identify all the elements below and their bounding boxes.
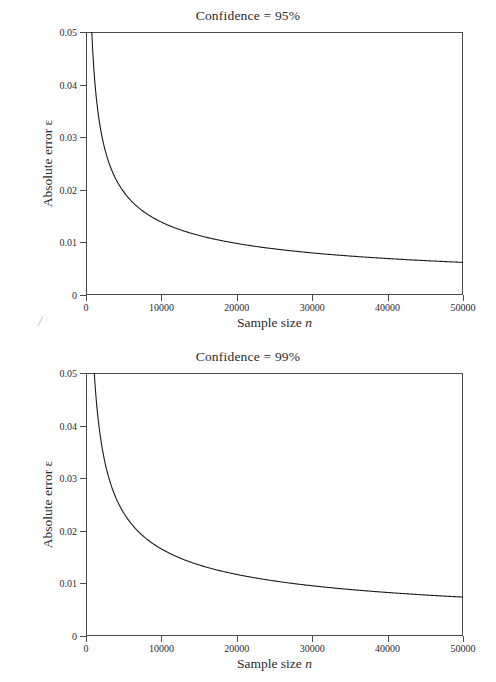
x-axis-label-variable-99: n (305, 656, 312, 671)
x-ticklabel-99-0: 0 (84, 643, 89, 654)
x-tick-95-2 (237, 295, 238, 301)
x-ticklabel-95-4: 40000 (375, 302, 400, 313)
y-ticklabel-99-4: 0.04 (60, 420, 78, 431)
x-axis-label-text-99: Sample size (237, 656, 305, 671)
y-axis-label-95: Absolute error ε (40, 32, 56, 295)
x-axis-label-95: Sample size n (86, 315, 463, 331)
y-ticklabel-99-1: 0.01 (60, 578, 78, 589)
y-ticklabel-99-3: 0.03 (60, 473, 78, 484)
x-ticklabel-95-0: 0 (84, 302, 89, 313)
y-tick-95-3 (80, 137, 86, 138)
x-ticklabel-99-5: 50000 (451, 643, 476, 654)
y-ticklabel-95-1: 0.01 (60, 237, 78, 248)
y-tick-99-1 (80, 583, 86, 584)
x-tick-99-5 (463, 636, 464, 642)
y-tick-99-2 (80, 531, 86, 532)
y-tick-95-2 (80, 190, 86, 191)
x-tick-99-0 (86, 636, 87, 642)
y-tick-95-5 (80, 32, 86, 33)
x-tick-99-3 (312, 636, 313, 642)
x-tick-95-3 (312, 295, 313, 301)
y-ticklabel-99-5: 0.05 (60, 368, 78, 379)
x-tick-95-4 (388, 295, 389, 301)
x-ticklabel-99-4: 40000 (375, 643, 400, 654)
x-ticklabel-99-3: 30000 (300, 643, 325, 654)
x-tick-99-2 (237, 636, 238, 642)
y-ticklabel-95-0: 0 (72, 290, 77, 301)
x-ticklabel-99-1: 10000 (149, 643, 174, 654)
y-ticklabel-95-4: 0.04 (60, 79, 78, 90)
x-axis-label-text-95: Sample size (237, 315, 305, 330)
x-tick-95-5 (463, 295, 464, 301)
y-ticklabel-95-3: 0.03 (60, 132, 78, 143)
figure-confidence-99: Confidence = 99% 00.010.020.030.040.05 0… (0, 341, 496, 682)
chart-title-99: Confidence = 99% (0, 349, 496, 365)
plot-area-95: 00.010.020.030.040.05 010000200003000040… (86, 32, 463, 295)
y-tick-99-3 (80, 478, 86, 479)
figure-confidence-95: Confidence = 95% 00.010.020.030.040.05 0… (0, 0, 496, 341)
y-tick-99-5 (80, 373, 86, 374)
x-axis-label-99: Sample size n (86, 656, 463, 672)
y-ticklabel-99-2: 0.02 (60, 525, 78, 536)
curve-99 (86, 373, 463, 636)
y-tick-95-4 (80, 85, 86, 86)
y-ticklabel-95-5: 0.05 (60, 27, 78, 38)
x-axis-label-variable-95: n (305, 315, 312, 330)
x-tick-95-1 (161, 295, 162, 301)
x-tick-99-4 (388, 636, 389, 642)
chart-title-95: Confidence = 95% (0, 8, 496, 24)
x-ticklabel-99-2: 20000 (224, 643, 249, 654)
x-ticklabel-95-1: 10000 (149, 302, 174, 313)
x-tick-95-0 (86, 295, 87, 301)
x-ticklabel-95-5: 50000 (451, 302, 476, 313)
x-tick-99-1 (161, 636, 162, 642)
y-axis-label-99: Absolute error ε (40, 373, 56, 636)
y-ticklabel-99-0: 0 (72, 631, 77, 642)
y-tick-95-1 (80, 242, 86, 243)
x-ticklabel-95-3: 30000 (300, 302, 325, 313)
plot-area-99: 00.010.020.030.040.05 010000200003000040… (86, 373, 463, 636)
scan-artifact-mark (36, 316, 45, 327)
curve-95 (86, 32, 463, 295)
y-tick-99-4 (80, 426, 86, 427)
y-ticklabel-95-2: 0.02 (60, 184, 78, 195)
x-ticklabel-95-2: 20000 (224, 302, 249, 313)
